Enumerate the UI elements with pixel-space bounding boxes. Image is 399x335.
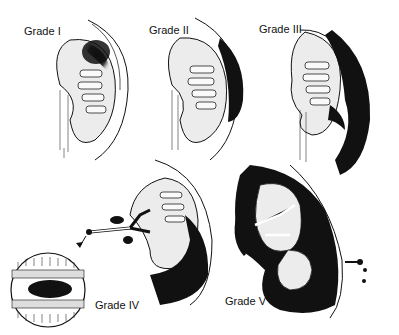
label-grade-3: Grade III <box>259 23 302 35</box>
kidney-grade-4 <box>76 160 212 305</box>
label-grade-5: Grade V <box>225 295 266 307</box>
kidney-grade-2 <box>168 18 243 160</box>
kidney-grades-diagram <box>0 0 399 335</box>
label-grade-2: Grade II <box>149 24 189 36</box>
label-grade-1: Grade I <box>24 25 61 37</box>
kidney-grade-3 <box>291 30 370 175</box>
kidney-grade-1 <box>57 20 128 160</box>
label-grade-4: Grade IV <box>95 299 139 311</box>
vessel-inset <box>11 253 85 327</box>
